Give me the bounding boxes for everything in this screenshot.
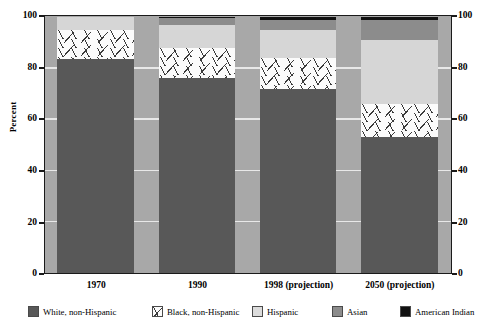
y-tick-mark [452, 118, 457, 120]
x-axis-label-2050: 2050 (projection) [320, 280, 480, 290]
bar-segment-white-nh[interactable] [361, 137, 437, 273]
bar-2050[interactable] [361, 17, 437, 273]
bar-segment-hispanic[interactable] [57, 17, 133, 30]
y-tick-label-right-20: 20 [458, 218, 489, 228]
y-tick-label-left-100: 100 [0, 11, 37, 21]
bar-1998[interactable] [260, 17, 336, 273]
legend-item-hispanic[interactable]: Hispanic [252, 306, 298, 317]
bar-1970[interactable] [57, 17, 133, 273]
y-tick-label-left-60: 60 [0, 114, 37, 124]
legend-label: Hispanic [267, 307, 298, 317]
bar-segment-amind[interactable] [361, 17, 437, 20]
bar-segment-black-nh[interactable] [57, 30, 133, 59]
legend-item-white-nh[interactable]: White, non-Hispanic [28, 306, 116, 317]
bar-segment-white-nh[interactable] [260, 89, 336, 273]
legend-swatch-hispanic [252, 306, 263, 317]
y-tick-mark [452, 222, 457, 224]
legend-label: Asian [347, 307, 368, 317]
y-tick-label-left-40: 40 [0, 166, 37, 176]
bar-segment-amind[interactable] [260, 17, 336, 20]
y-tick-mark [452, 273, 457, 275]
bar-segment-black-nh[interactable] [159, 48, 235, 79]
bar-segment-amind[interactable] [159, 17, 235, 18]
bar-segment-hispanic[interactable] [260, 30, 336, 58]
y-tick-mark [452, 170, 457, 172]
bar-segment-asian[interactable] [159, 18, 235, 24]
legend-item-asian[interactable]: Asian [332, 306, 368, 317]
legend-swatch-white-nh [28, 306, 39, 317]
y-tick-label-right-100: 100 [458, 11, 489, 21]
legend-item-amind[interactable]: American Indian [400, 306, 474, 317]
legend-label: Black, non-Hispanic [167, 307, 239, 317]
y-tick-label-right-0: 0 [458, 269, 489, 279]
legend-label: American Indian [415, 307, 474, 317]
plot-area [44, 15, 452, 274]
bar-segment-asian[interactable] [260, 20, 336, 30]
bar-segment-hispanic[interactable] [361, 40, 437, 104]
y-tick-label-left-0: 0 [0, 269, 37, 279]
chart-legend: White, non-HispanicBlack, non-HispanicHi… [0, 306, 489, 328]
y-tick-mark [452, 67, 457, 69]
y-tick-label-left-80: 80 [0, 63, 37, 73]
bar-segment-asian[interactable] [361, 20, 437, 40]
bar-segment-hispanic[interactable] [159, 25, 235, 48]
y-tick-label-right-40: 40 [458, 166, 489, 176]
legend-item-black-nh[interactable]: Black, non-Hispanic [152, 306, 239, 317]
bar-segment-white-nh[interactable] [57, 59, 133, 273]
y-tick-label-right-80: 80 [458, 63, 489, 73]
bar-segment-white-nh[interactable] [159, 78, 235, 273]
y-tick-mark [452, 15, 457, 17]
legend-swatch-amind [400, 306, 411, 317]
legend-swatch-black-nh [152, 306, 163, 317]
chart-container: Percent 100 80 60 40 20 0 100 80 60 40 2… [0, 0, 489, 331]
bar-segment-black-nh[interactable] [361, 104, 437, 137]
bar-segment-black-nh[interactable] [260, 58, 336, 89]
legend-label: White, non-Hispanic [43, 307, 116, 317]
y-tick-label-right-60: 60 [458, 114, 489, 124]
bar-1990[interactable] [159, 17, 235, 273]
legend-swatch-asian [332, 306, 343, 317]
y-tick-label-left-20: 20 [0, 218, 37, 228]
